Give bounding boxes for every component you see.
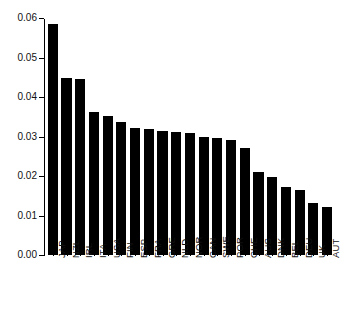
x-axis-tick-mark bbox=[80, 252, 81, 256]
bar-column bbox=[240, 18, 250, 255]
x-axis-tick-mark bbox=[327, 252, 328, 256]
x-axis-tick-label: BEL bbox=[290, 240, 300, 258]
x-axis-tick-mark bbox=[259, 252, 260, 256]
x-axis-tick-label: ESP bbox=[139, 239, 149, 258]
bar-column bbox=[185, 18, 195, 255]
y-axis-line bbox=[44, 19, 45, 256]
bar-column bbox=[61, 18, 71, 255]
bar bbox=[61, 78, 71, 255]
x-axis-tick-label: IRL bbox=[84, 243, 94, 258]
bar bbox=[75, 79, 85, 255]
x-axis-tick-label: USA bbox=[112, 238, 122, 258]
x-axis-tick-mark bbox=[53, 252, 54, 256]
y-axis-tick-label: 0.00 bbox=[18, 250, 37, 260]
x-axis-tick-mark bbox=[149, 252, 150, 256]
x-axis-tick-mark bbox=[190, 252, 191, 256]
x-axis-tick-label: JAP bbox=[57, 240, 67, 258]
x-axis-tick-mark bbox=[231, 252, 232, 256]
x-axis-tick-mark bbox=[313, 252, 314, 256]
y-axis-tick-label: 0.06 bbox=[18, 13, 37, 23]
x-axis-tick-mark bbox=[217, 252, 218, 256]
bar-column bbox=[322, 18, 332, 255]
x-axis-tick-label: CAN bbox=[208, 238, 218, 258]
x-axis-tick-mark bbox=[176, 252, 177, 256]
bar-chart-figure: 0.000.010.020.030.040.050.06 JAPNZLIRLIT… bbox=[0, 0, 344, 313]
x-axis-tick-mark bbox=[245, 252, 246, 256]
x-axis-tick-mark bbox=[121, 252, 122, 256]
x-axis-tick-labels: JAPNZLIRLITAUSAFINESPFRAGRENLDNORCANSWEP… bbox=[46, 256, 334, 302]
y-axis-tick-label: 0.05 bbox=[18, 53, 37, 63]
x-axis-tick-label: ITA bbox=[98, 244, 108, 258]
bar-column bbox=[308, 18, 318, 255]
x-axis-tick-label: DNK bbox=[276, 238, 286, 258]
x-axis-tick-label: AUT bbox=[331, 239, 341, 258]
y-axis-tick-mark bbox=[39, 255, 44, 256]
x-axis-tick-label: NOR bbox=[194, 237, 204, 258]
x-axis-tick-label: GRE bbox=[167, 237, 177, 258]
bar bbox=[48, 24, 58, 255]
plot-area bbox=[46, 18, 334, 255]
bar-column bbox=[171, 18, 181, 255]
bar-column bbox=[267, 18, 277, 255]
bar bbox=[103, 116, 113, 255]
y-axis-tick-labels: 0.000.010.020.030.040.050.06 bbox=[0, 0, 37, 313]
bar-column bbox=[212, 18, 222, 255]
x-axis-tick-label: FIN bbox=[125, 242, 135, 258]
bar-column bbox=[226, 18, 236, 255]
bar-column bbox=[130, 18, 140, 255]
x-axis-tick-label: SWE bbox=[221, 236, 231, 258]
bar-column bbox=[253, 18, 263, 255]
bar-column bbox=[75, 18, 85, 255]
bar bbox=[130, 128, 140, 255]
y-axis-tick-label: 0.02 bbox=[18, 171, 37, 181]
x-axis-tick-mark bbox=[300, 252, 301, 256]
y-axis-tick-mark bbox=[39, 18, 44, 19]
bar bbox=[89, 112, 99, 255]
x-axis-tick-mark bbox=[163, 252, 164, 256]
x-axis-tick-mark bbox=[67, 252, 68, 256]
x-axis-tick-mark bbox=[108, 252, 109, 256]
x-axis-tick-label: POR bbox=[235, 237, 245, 258]
x-axis-tick-mark bbox=[286, 252, 287, 256]
y-axis-tick-mark bbox=[39, 216, 44, 217]
bar bbox=[144, 129, 154, 255]
bar-column bbox=[281, 18, 291, 255]
y-axis-tick-mark bbox=[39, 137, 44, 138]
x-axis-tick-mark bbox=[204, 252, 205, 256]
bar-column bbox=[295, 18, 305, 255]
y-axis-tick-label: 0.01 bbox=[18, 211, 37, 221]
bar-column bbox=[48, 18, 58, 255]
bar-column bbox=[199, 18, 209, 255]
bar-column bbox=[116, 18, 126, 255]
bar-column bbox=[157, 18, 167, 255]
x-axis-tick-label: AUS bbox=[263, 238, 273, 258]
x-axis-tick-mark bbox=[94, 252, 95, 256]
x-axis-tick-label: CHE bbox=[249, 238, 259, 258]
x-axis-tick-label: UK bbox=[317, 245, 327, 258]
x-axis-tick-label: NLD bbox=[180, 239, 190, 258]
x-axis-tick-label: FRA bbox=[153, 239, 163, 258]
y-axis-tick-label: 0.03 bbox=[18, 132, 37, 142]
bar bbox=[116, 122, 126, 255]
bar-column bbox=[89, 18, 99, 255]
bar-column bbox=[144, 18, 154, 255]
x-axis-tick-label: NZL bbox=[71, 240, 81, 258]
y-axis-tick-mark bbox=[39, 176, 44, 177]
y-axis-tick-label: 0.04 bbox=[18, 92, 37, 102]
bar-column bbox=[103, 18, 113, 255]
y-axis-tick-mark bbox=[39, 58, 44, 59]
y-axis-tick-mark bbox=[39, 97, 44, 98]
x-axis-tick-mark bbox=[272, 252, 273, 256]
x-axis-tick-label: DEU bbox=[304, 238, 314, 258]
x-axis-tick-mark bbox=[135, 252, 136, 256]
